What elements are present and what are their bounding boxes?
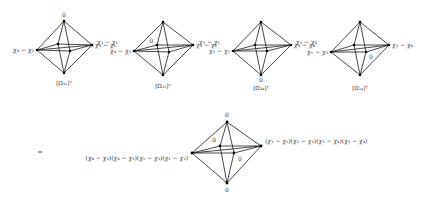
vertex-label-front: 0 [369, 53, 373, 60]
vertex-label-left: χ₁ − χ₃ [209, 47, 231, 55]
result-label-back: 0 [212, 136, 216, 143]
vertex-label-left: χ₄ − χ₃ [13, 46, 35, 54]
vertex-label-left: χ₄ − χ₃ [110, 47, 132, 55]
outer-label: χ₃ − χ₁ [199, 38, 220, 46]
result-label-front: 0 [238, 155, 242, 162]
result-label-left: (χ₄ − χ₃)(χ₄ − χ₃)(χ₁ − χ₃)(χ₁ − χ₃) [86, 154, 188, 162]
vertex-label-left: χ₁ − χ₃ [307, 48, 329, 56]
octahedron-omega-13: 0 χ₄ − χ₃ χ₃ − χ₁ χ₃ − χ₁ [Ω₁₃]ᵀ [97, 21, 217, 89]
result-label-bottom: 0 [225, 186, 229, 193]
vertex-label-top: 0 [62, 11, 66, 18]
octahedron-omega-24: 0 χ₁ − χ₃ χ₃ − χ₄ χ₃ − χ₄ [Ω₂₄]ᵀ [296, 21, 413, 91]
octahedron-omega-12: 0 χ₄ − χ₃ χ₃ − χ₁ [Ω₁₂]ᵀ [13, 11, 116, 86]
caption-omega-24: [Ω₂₄]ᵀ [352, 85, 368, 91]
octahedron-omega-34: 0 χ₁ − χ₃ χ₃ − χ₄ χ₃ − χ₁ [Ω₃₄]ᵀ [199, 21, 315, 91]
vertex-label-right: χ₃ − χ₄ [392, 41, 414, 49]
octahedron-diagram: 0 χ₄ − χ₃ χ₃ − χ₁ [Ω₁₂]ᵀ 0 χ₄ − χ₃ χ₃ − … [0, 0, 421, 204]
equals-sign: = [37, 148, 42, 155]
outer-label: χ₃ − χ₄ [296, 38, 318, 46]
result-label-right: (χ₃ − χ₁)(χ₃ − χ₁)(χ₃ − χ₄)(χ₃ − χ₄) [265, 137, 367, 145]
vertex-label-bottom: 0 [259, 76, 263, 83]
result-label-top: 0 [225, 111, 229, 118]
octahedron-result: 0 0 0 0 (χ₄ − χ₃)(χ₄ − χ₃)(χ₁ − χ₃)(χ₁ −… [86, 111, 368, 193]
vertex-label-back: 0 [149, 37, 153, 44]
caption-omega-13: [Ω₁₃]ᵀ [155, 83, 171, 89]
caption-omega-34: [Ω₃₄]ᵀ [253, 85, 269, 91]
caption-omega-12: [Ω₁₂]ᵀ [56, 80, 72, 86]
outer-label: χ₃ − χ₁ [97, 38, 118, 46]
